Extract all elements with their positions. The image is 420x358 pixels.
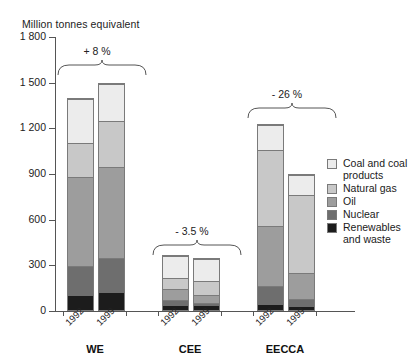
bar-segment-oil xyxy=(289,273,314,299)
bar-segment-nuclear xyxy=(99,258,124,293)
bar-segment-coal xyxy=(194,259,219,281)
legend-swatch-coal-icon xyxy=(327,159,337,169)
bar-segment-oil xyxy=(163,289,188,299)
pct-annotation-cee: - 3.5 % xyxy=(147,225,237,237)
bar-we-1999[interactable] xyxy=(98,83,125,311)
bar-segment-coal xyxy=(68,99,93,143)
legend-swatch-renewables-icon xyxy=(327,223,337,233)
legend-item-natural-gas[interactable]: Natural gas xyxy=(327,182,419,194)
legend-swatch-nuclear-icon xyxy=(327,210,337,220)
group-label-eecca: EECCA xyxy=(248,343,322,355)
bar-segment-natural-gas xyxy=(163,278,188,289)
bar-segment-natural-gas xyxy=(194,281,219,295)
group-label-cee: CEE xyxy=(155,343,225,355)
bar-cee-1999[interactable] xyxy=(193,258,220,311)
bar-eecca-1992[interactable] xyxy=(257,124,284,311)
legend-label-nuclear: Nuclear xyxy=(343,208,379,220)
bar-cee-1992[interactable] xyxy=(162,255,189,311)
bar-segment-natural-gas xyxy=(289,195,314,273)
pct-annotation-eecca: - 26 % xyxy=(242,88,332,100)
chart-legend: Coal and coal products Natural gas Oil N… xyxy=(327,157,419,246)
legend-swatch-oil-icon xyxy=(327,197,337,207)
bar-segment-natural-gas xyxy=(258,150,283,225)
bar-segment-coal xyxy=(289,175,314,195)
bar-segment-nuclear xyxy=(258,286,283,306)
legend-label-renewables: Renewables and waste xyxy=(343,221,419,245)
group-label-we: WE xyxy=(60,343,130,355)
legend-item-renewables[interactable]: Renewables and waste xyxy=(327,221,419,245)
bar-segment-coal xyxy=(258,125,283,151)
legend-item-oil[interactable]: Oil xyxy=(327,195,419,207)
bar-segment-oil xyxy=(258,226,283,286)
bar-segment-oil xyxy=(68,177,93,266)
pct-annotation-we: + 8 % xyxy=(52,45,142,57)
bar-eecca-1999[interactable] xyxy=(288,174,315,311)
bar-segment-oil xyxy=(194,295,219,303)
legend-item-coal[interactable]: Coal and coal products xyxy=(327,157,419,181)
bar-we-1992[interactable] xyxy=(67,98,94,311)
legend-item-nuclear[interactable]: Nuclear xyxy=(327,208,419,220)
energy-consumption-stacked-bar-chart: Million tonnes equivalent 1 800 1 500 1 … xyxy=(0,0,420,358)
brace-we xyxy=(57,60,147,76)
legend-label-natural-gas: Natural gas xyxy=(343,182,397,194)
bar-segment-nuclear xyxy=(68,266,93,296)
bar-segment-nuclear xyxy=(163,300,188,307)
brace-cee xyxy=(152,240,242,256)
bar-segment-coal xyxy=(163,256,188,278)
bar-segment-natural-gas xyxy=(99,121,124,167)
legend-swatch-natural-gas-icon xyxy=(327,184,337,194)
legend-label-oil: Oil xyxy=(343,195,356,207)
brace-eecca xyxy=(247,103,337,119)
bar-segment-oil xyxy=(99,167,124,258)
bar-segment-natural-gas xyxy=(68,143,93,178)
bar-segment-nuclear xyxy=(289,299,314,307)
legend-label-coal: Coal and coal products xyxy=(343,157,419,181)
bar-segment-coal xyxy=(99,84,124,122)
